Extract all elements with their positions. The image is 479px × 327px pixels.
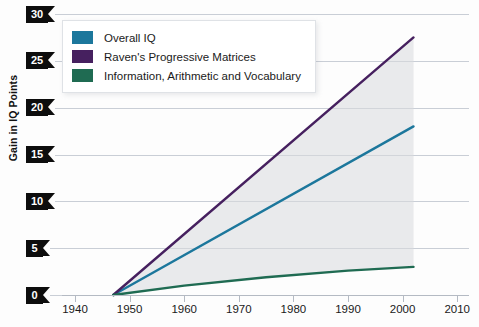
y-axis-label-15: 15 [26, 146, 55, 163]
y-axis-label-20: 20 [26, 99, 55, 116]
x-axis-tick-1950 [130, 296, 131, 302]
y-axis-label-connector [55, 14, 67, 15]
y-axis-label-text: 0 [26, 287, 43, 304]
y-axis-label-pointer [43, 240, 50, 256]
x-axis-label-2010: 2010 [434, 303, 479, 315]
y-axis-label-text: 5 [26, 240, 43, 257]
legend-item[interactable]: Raven's Progressive Matrices [72, 47, 301, 66]
x-axis-tick-1980 [293, 296, 294, 302]
x-axis-tick-1940 [75, 296, 76, 302]
y-axis-label-0: 0 [26, 287, 50, 304]
y-axis-label-pointer [48, 99, 55, 115]
flynn-effect-line-chart: Gain in IQ Points 302520151050 194019501… [0, 0, 479, 327]
y-axis-label-connector [55, 201, 67, 202]
y-axis-label-pointer [48, 193, 55, 209]
x-axis-label-1990: 1990 [325, 303, 371, 315]
legend-item[interactable]: Information, Arithmetic and Vocabulary [72, 66, 301, 85]
y-axis-label-text: 20 [26, 99, 48, 116]
y-axis-label-text: 10 [26, 193, 48, 210]
y-axis-label-pointer [48, 6, 55, 22]
x-axis-label-1940: 1940 [52, 303, 98, 315]
x-axis-tick-1970 [239, 296, 240, 302]
y-axis-label-text: 30 [26, 6, 48, 23]
x-axis-tick-2000 [403, 296, 404, 302]
y-axis-title: Gain in IQ Points [7, 58, 19, 178]
x-axis-label-1980: 1980 [270, 303, 316, 315]
legend-item-label: Information, Arithmetic and Vocabulary [104, 70, 301, 82]
y-axis-label-pointer [48, 52, 55, 68]
y-axis-label-connector [50, 248, 62, 249]
x-axis-label-1970: 1970 [216, 303, 262, 315]
y-axis-label-5: 5 [26, 240, 50, 257]
legend-color-swatch [72, 31, 93, 44]
legend-item-label: Raven's Progressive Matrices [104, 51, 256, 63]
y-axis-label-25: 25 [26, 52, 55, 69]
y-axis-label-30: 30 [26, 6, 55, 23]
y-axis-label-text: 15 [26, 146, 48, 163]
y-axis-label-pointer [48, 146, 55, 162]
y-axis-label-10: 10 [26, 193, 55, 210]
x-axis-tick-2010 [457, 296, 458, 302]
legend-item-label: Overall IQ [104, 32, 156, 44]
y-axis-label-connector [55, 155, 67, 156]
legend-item[interactable]: Overall IQ [72, 28, 301, 47]
y-axis-label-text: 25 [26, 52, 48, 69]
x-axis-label-1960: 1960 [161, 303, 207, 315]
x-axis-tick-1990 [348, 296, 349, 302]
legend-color-swatch [72, 50, 93, 63]
x-axis-line [62, 295, 469, 296]
x-axis-tick-1960 [184, 296, 185, 302]
x-axis-label-2000: 2000 [380, 303, 426, 315]
x-axis-label-1950: 1950 [107, 303, 153, 315]
y-axis-label-connector [55, 108, 67, 109]
y-axis-label-connector [50, 295, 62, 296]
y-axis-label-pointer [43, 287, 50, 303]
legend-color-swatch [72, 69, 93, 82]
chart-legend: Overall IQRaven's Progressive MatricesIn… [62, 20, 316, 93]
